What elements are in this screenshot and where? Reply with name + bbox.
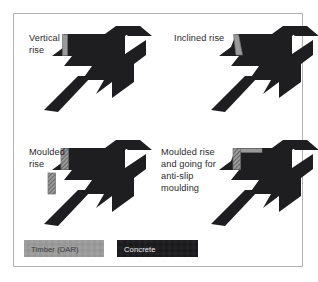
legend-label-timber: Timber (DAR) — [31, 245, 79, 254]
timber-riser-lower-moulded-rise — [48, 173, 56, 194]
diagram-vertical-rise: Vertical rise — [29, 26, 152, 112]
diagram-moulded-rise: Moulded rise — [29, 140, 152, 226]
timber-nosing-moulded-rise-and-going — [241, 149, 263, 153]
diagram-moulded-rise-and-going: Moulded rise and going for anti-slip mou… — [161, 140, 318, 226]
concrete-body-inclined-rise — [219, 26, 313, 98]
label-vertical-rise: Vertical rise — [29, 33, 63, 55]
concrete-soffit-vertical-rise — [44, 76, 92, 112]
legend: Timber (DAR) Concrete — [24, 240, 198, 257]
label-moulded-rise-and-going: Moulded rise and going for anti-slip mou… — [161, 147, 219, 193]
label-moulded-rise-and-going-line-3: moulding — [161, 183, 199, 193]
stair-details-illustration: Vertical rise Inclined rise — [0, 0, 318, 282]
legend-item-concrete: Concrete — [117, 240, 198, 257]
label-moulded-rise-and-going-line-2: anti-slip — [161, 171, 194, 181]
label-vertical-rise-line-0: Vertical — [29, 33, 60, 43]
label-moulded-rise-and-going-line-0: Moulded rise — [161, 147, 215, 157]
label-moulded-rise-line-0: Moulded — [29, 147, 65, 157]
concrete-soffit-inclined-rise — [211, 76, 259, 112]
label-moulded-rise-and-going-line-1: and going for — [161, 159, 216, 169]
figure-root: Vertical rise Inclined rise — [0, 0, 318, 282]
concrete-soffit-moulded-rise-and-going — [211, 190, 259, 226]
label-moulded-rise-line-1: rise — [29, 159, 44, 169]
concrete-soffit-moulded-rise — [44, 190, 92, 226]
label-vertical-rise-line-1: rise — [29, 45, 44, 55]
label-inclined-rise: Inclined rise — [174, 33, 224, 43]
legend-item-timber: Timber (DAR) — [24, 240, 104, 257]
timber-riser-vertical-rise — [63, 35, 68, 56]
label-inclined-rise-line-0: Inclined rise — [174, 33, 224, 43]
diagram-inclined-rise: Inclined rise — [174, 26, 318, 112]
timber-riser-moulded-rise-and-going — [233, 149, 241, 170]
legend-label-concrete: Concrete — [124, 245, 156, 254]
